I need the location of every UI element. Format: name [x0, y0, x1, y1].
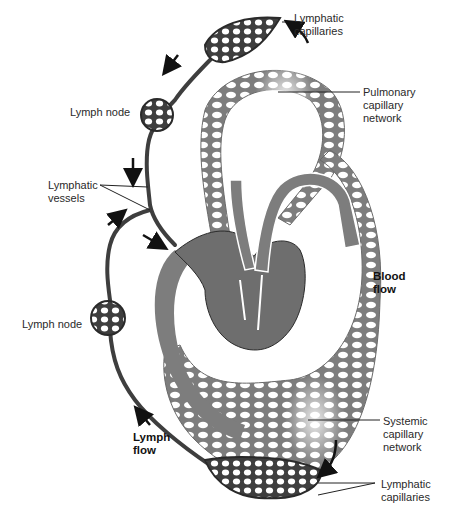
- lymphatic-capillaries-top: [205, 17, 280, 62]
- label-lymphatic-capillaries-bottom: Lymphatic capillaries: [381, 478, 431, 504]
- label-lymph-flow: Lymph flow: [133, 431, 170, 457]
- arrow-icon: [168, 55, 178, 68]
- diagram-artwork: [0, 0, 449, 531]
- lymph-node-lower: [91, 301, 125, 335]
- label-lymph-node-lower: Lymph node: [22, 318, 82, 331]
- circulation-diagram: Lymphatic capillaries Pulmonary capillar…: [0, 0, 449, 531]
- arrow-icon: [143, 235, 160, 245]
- label-systemic-capillary-network: Systemic capillary network: [383, 415, 428, 454]
- arrow-icon: [108, 215, 120, 225]
- label-lymph-node-upper: Lymph node: [70, 106, 130, 119]
- heart: [175, 173, 360, 350]
- label-lymphatic-capillaries-top: Lymphatic capillaries: [294, 12, 344, 38]
- label-blood-flow: Blood flow: [373, 270, 406, 296]
- lymphatic-capillaries-bottom: [205, 457, 321, 498]
- label-pulmonary-capillary-network: Pulmonary capillary network: [363, 86, 416, 125]
- label-lymphatic-vessels: Lymphatic vessels: [48, 179, 98, 205]
- lymph-node-upper: [141, 99, 173, 131]
